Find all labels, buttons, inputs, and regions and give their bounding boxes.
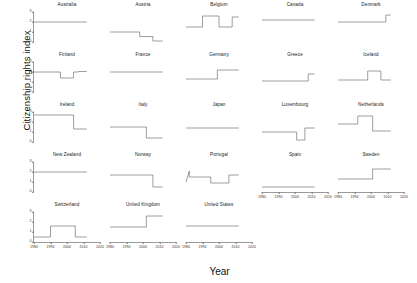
x-tick-mark xyxy=(34,242,35,244)
panel-canada: Canada xyxy=(262,12,328,42)
series-line xyxy=(110,175,163,187)
plot-area xyxy=(338,162,404,192)
x-tick-label: 2000 xyxy=(139,245,147,249)
panel-belgium: Belgium xyxy=(186,12,252,42)
y-tick-label: 2 xyxy=(30,20,32,24)
series-line xyxy=(186,70,239,79)
y-tick-label: 2 xyxy=(30,170,32,174)
x-tick-label: 2010 xyxy=(384,195,392,199)
x-tick-label: 1980 xyxy=(334,195,342,199)
panel-title: Portugal xyxy=(186,152,252,157)
y-tick-label: 1 xyxy=(30,130,32,134)
x-tick-label: 1980 xyxy=(30,245,38,249)
series-line xyxy=(110,127,163,138)
x-tick-mark xyxy=(186,242,187,244)
x-tick-label: 1990 xyxy=(351,195,359,199)
x-tick-mark xyxy=(295,192,296,194)
panel-title: Sweden xyxy=(338,152,404,157)
x-tick-mark xyxy=(338,192,339,194)
x-tick-label: 1990 xyxy=(47,245,55,249)
plot-area xyxy=(34,212,100,242)
x-tick-label: 1980 xyxy=(182,245,190,249)
panel-greece: Greece xyxy=(262,62,328,92)
series-line xyxy=(338,71,391,80)
x-tick-mark xyxy=(252,242,253,244)
x-axis-label-text: Year xyxy=(187,266,229,277)
panel-title: Finland xyxy=(34,52,100,57)
y-tick-label: 1 xyxy=(30,80,32,84)
series-line xyxy=(338,15,391,22)
y-tick-label: 2 xyxy=(30,220,32,224)
x-tick-mark xyxy=(235,242,236,244)
panel-luxembourg: Luxembourg xyxy=(262,112,328,142)
plot-area xyxy=(338,62,404,92)
plot-area xyxy=(110,12,176,42)
plot-area xyxy=(186,62,252,92)
plot-area xyxy=(186,12,252,42)
series-line xyxy=(34,226,87,237)
x-tick-label: 1980 xyxy=(258,195,266,199)
y-tick-label: 2 xyxy=(30,70,32,74)
plot-area xyxy=(110,62,176,92)
panel-finland: Finland0123 xyxy=(34,62,100,92)
x-tick-label: 1990 xyxy=(123,245,131,249)
panel-france: France xyxy=(110,62,176,92)
panel-sweden: Sweden19801990200020102020 xyxy=(338,162,404,192)
x-tick-label: 1990 xyxy=(199,245,207,249)
panel-italy: Italy xyxy=(110,112,176,142)
panel-title: United States xyxy=(186,202,252,207)
x-tick-mark xyxy=(371,192,372,194)
y-tick-label: 1 xyxy=(30,30,32,34)
panel-title: United Kingdom xyxy=(110,202,176,207)
panel-norway: Norway xyxy=(110,162,176,192)
panel-title: New Zealand xyxy=(34,152,100,157)
y-tick-label: 1 xyxy=(30,230,32,234)
series-line xyxy=(338,169,391,179)
x-axis: 19801990200020102020 xyxy=(186,242,252,252)
y-axis: 0123 xyxy=(25,62,34,92)
y-tick-label: 3 xyxy=(30,60,32,64)
x-tick-mark xyxy=(354,192,355,194)
y-tick-label: 0 xyxy=(30,190,32,194)
plot-area xyxy=(262,112,328,142)
panel-title: Iceland xyxy=(338,52,404,57)
panel-title: Austria xyxy=(110,2,176,7)
x-axis: 19801990200020102020 xyxy=(34,242,100,252)
y-tick-label: 0 xyxy=(30,140,32,144)
x-tick-mark xyxy=(387,192,388,194)
panel-title: Australia xyxy=(34,2,100,7)
x-tick-mark xyxy=(176,242,177,244)
plot-area xyxy=(110,212,176,242)
plot-area xyxy=(110,162,176,192)
series-line xyxy=(262,74,315,81)
plot-area xyxy=(262,12,328,42)
panel-new-zealand: New Zealand0123 xyxy=(34,162,100,192)
panel-united-kingdom: United Kingdom19801990200020102020 xyxy=(110,212,176,242)
panel-title: Netherlands xyxy=(338,102,404,107)
panel-australia: Australia0123 xyxy=(34,12,100,42)
x-tick-label: 2020 xyxy=(324,195,332,199)
panel-switzerland: Switzerland012319801990200020102020 xyxy=(34,212,100,242)
plot-area xyxy=(338,112,404,142)
x-tick-label: 2000 xyxy=(215,245,223,249)
plot-area xyxy=(34,12,100,42)
x-tick-label: 2010 xyxy=(308,195,316,199)
y-axis: 0123 xyxy=(25,112,34,142)
plot-area xyxy=(34,162,100,192)
panel-title: Greece xyxy=(262,52,328,57)
plot-area xyxy=(338,12,404,42)
series-line xyxy=(34,72,87,79)
x-tick-label: 2000 xyxy=(367,195,375,199)
panel-title: Norway xyxy=(110,152,176,157)
x-tick-label: 2020 xyxy=(172,245,180,249)
x-tick-label: 1980 xyxy=(106,245,114,249)
panel-title: Denmark xyxy=(338,2,404,7)
x-tick-label: 2000 xyxy=(63,245,71,249)
plot-area xyxy=(34,62,100,92)
series-line xyxy=(34,115,87,129)
panel-title: Japan xyxy=(186,102,252,107)
panel-title: France xyxy=(110,52,176,57)
series-line xyxy=(262,128,315,140)
plot-area xyxy=(186,112,252,142)
y-tick-label: 1 xyxy=(30,180,32,184)
